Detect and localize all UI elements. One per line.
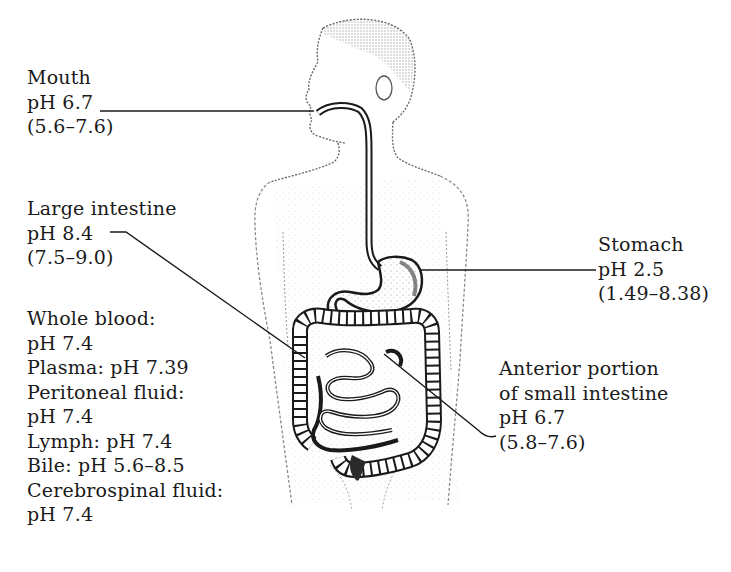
fluid-line: pH 7.4 bbox=[27, 331, 223, 356]
small-intestine-label: Anterior portion of small intestine pH 6… bbox=[499, 356, 669, 454]
large-intestine-label: Large intestine pH 8.4 (7.5–9.0) bbox=[27, 196, 177, 270]
hair bbox=[323, 19, 414, 92]
fluid-line: Cerebrospinal fluid: bbox=[27, 478, 223, 503]
fluid-line: Plasma: pH 7.39 bbox=[27, 355, 223, 380]
stomach-name: Stomach bbox=[598, 232, 709, 257]
large-intestine-ph: pH 8.4 bbox=[27, 221, 177, 246]
stomach-ph: pH 2.5 bbox=[598, 257, 709, 282]
fluid-line: pH 7.4 bbox=[27, 404, 223, 429]
fluid-line: Peritoneal fluid: bbox=[27, 380, 223, 405]
fluid-line: Bile: pH 5.6–8.5 bbox=[27, 453, 223, 478]
fluid-line: Lymph: pH 7.4 bbox=[27, 429, 223, 454]
small-intestine-line2: of small intestine bbox=[499, 381, 669, 406]
stomach-label: Stomach pH 2.5 (1.49–8.38) bbox=[598, 232, 709, 306]
ear bbox=[376, 76, 392, 100]
fluid-line: Whole blood: bbox=[27, 306, 223, 331]
digestive-ph-diagram: Mouth pH 6.7 (5.6–7.6) Large intestine p… bbox=[0, 0, 731, 572]
large-intestine-name: Large intestine bbox=[27, 196, 177, 221]
mouth-name: Mouth bbox=[27, 65, 114, 90]
small-intestine-line1: Anterior portion bbox=[499, 356, 669, 381]
mouth-range: (5.6–7.6) bbox=[27, 114, 114, 139]
small-intestine-ph: pH 6.7 bbox=[499, 405, 669, 430]
stomach-range: (1.49–8.38) bbox=[598, 281, 709, 306]
small-intestine-range: (5.8–7.6) bbox=[499, 430, 669, 455]
large-intestine-range: (7.5–9.0) bbox=[27, 245, 177, 270]
mouth-ph: pH 6.7 bbox=[27, 90, 114, 115]
body-fluids-list: Whole blood: pH 7.4 Plasma: pH 7.39 Peri… bbox=[27, 306, 223, 527]
fluid-line: pH 7.4 bbox=[27, 502, 223, 527]
mouth-label: Mouth pH 6.7 (5.6–7.6) bbox=[27, 65, 114, 139]
